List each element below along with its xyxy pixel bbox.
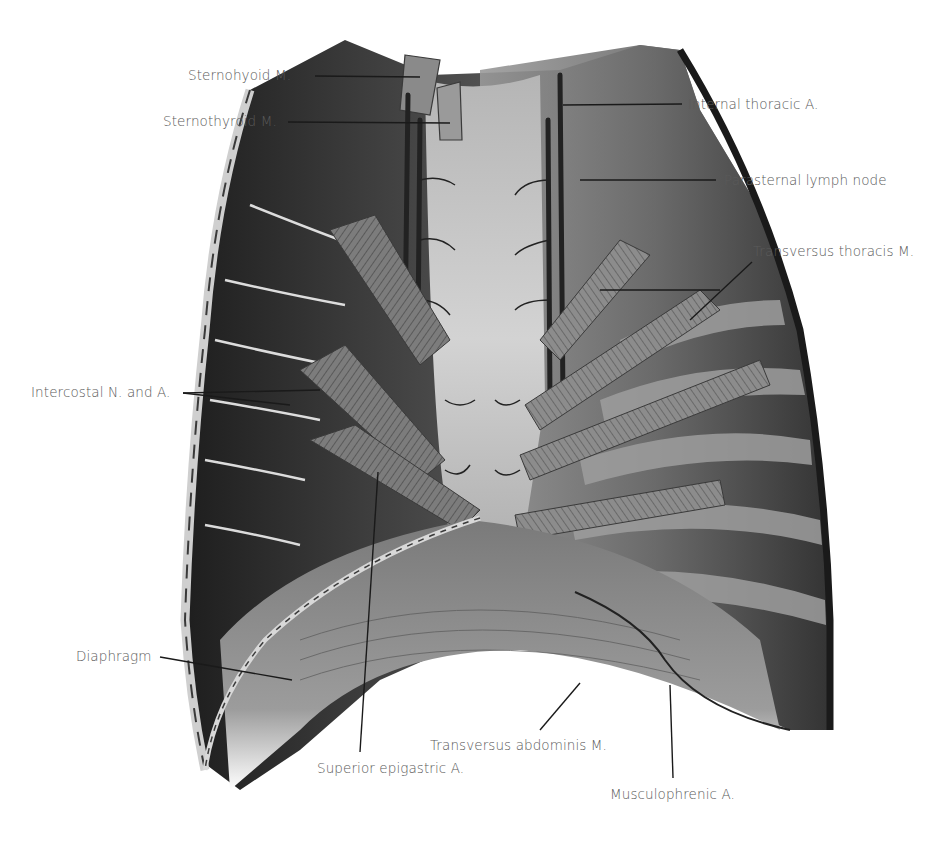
label-diaphragm: Diaphragm	[76, 648, 152, 664]
thoracic-wall-drawing	[0, 0, 944, 850]
label-sternothyroid: Sternothyroid M.	[163, 113, 277, 129]
sternothyroid-muscle	[437, 82, 462, 140]
label-transversus-abdominis: Transversus abdominis M.	[430, 737, 607, 753]
label-internal-thoracic-artery: Internal thoracic A.	[688, 96, 818, 112]
anatomical-illustration: Sternohyoid M. Sternothyroid M. Internal…	[0, 0, 944, 850]
label-superior-epigastric-artery: Superior epigastric A.	[317, 760, 464, 776]
label-sternohyoid: Sternohyoid M.	[188, 67, 291, 83]
label-musculophrenic-artery: Musculophrenic A.	[610, 786, 735, 802]
label-transversus-thoracis: Transversus thoracis M.	[753, 243, 914, 259]
label-intercostal-nerve-artery: Intercostal N. and A.	[31, 384, 170, 400]
label-parasternal-lymph-node: Parasternal lymph node	[724, 172, 887, 188]
